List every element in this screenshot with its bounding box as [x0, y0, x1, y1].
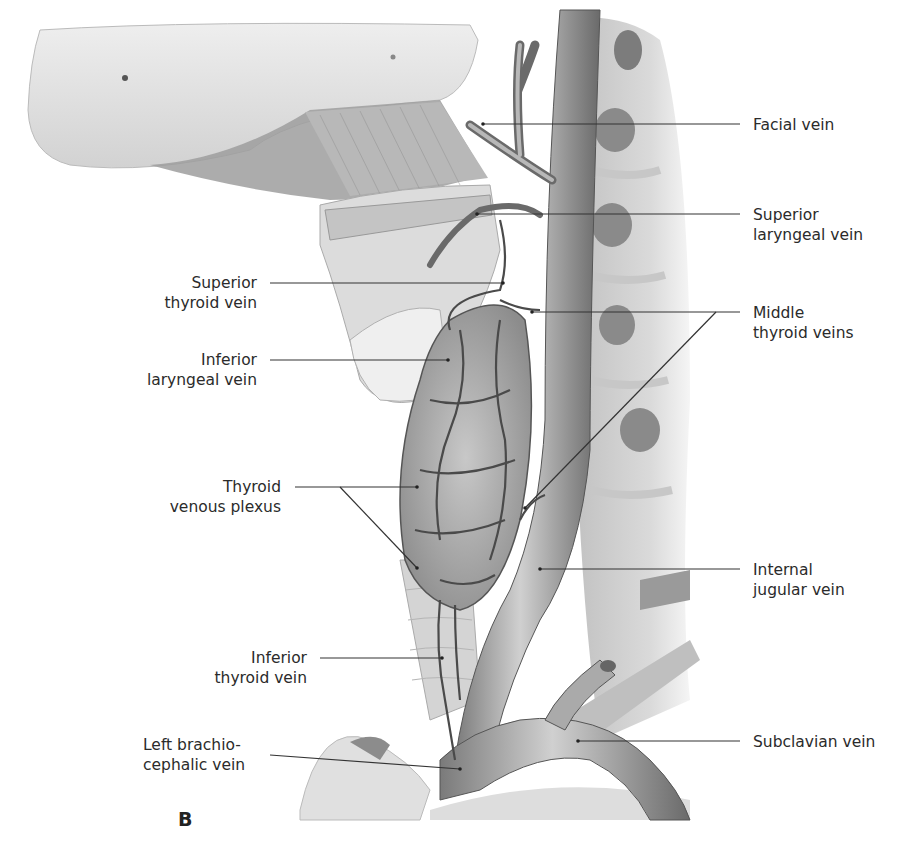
panel-letter: B	[178, 808, 192, 830]
label-subclavian-vein: Subclavian vein	[753, 732, 875, 752]
label-superior-laryngeal-vein: Superior laryngeal vein	[753, 205, 863, 245]
label-inferior-thyroid-vein: Inferior thyroid vein	[214, 648, 307, 688]
label-left-brachiocephalic-vein: Left brachio- cephalic vein	[143, 735, 245, 775]
label-facial-vein: Facial vein	[753, 115, 834, 135]
label-inferior-laryngeal-vein: Inferior laryngeal vein	[147, 350, 257, 390]
label-thyroid-venous-plexus: Thyroid venous plexus	[170, 477, 281, 517]
label-superior-thyroid-vein: Superior thyroid vein	[164, 273, 257, 313]
label-internal-jugular-vein: Internal jugular vein	[753, 560, 845, 600]
label-middle-thyroid-veins: Middle thyroid veins	[753, 303, 854, 343]
